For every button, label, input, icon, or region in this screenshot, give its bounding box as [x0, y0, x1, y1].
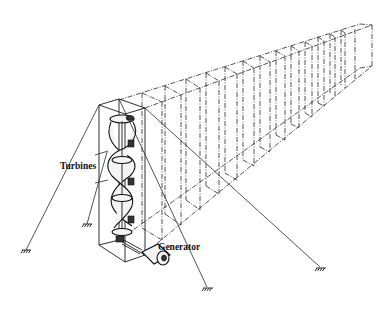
frame-structure	[119, 24, 372, 255]
ground-anchor-icon	[202, 288, 213, 291]
turbine-frame-diagram	[0, 0, 392, 314]
ground-anchor-icon	[21, 250, 31, 253]
helical-turbines	[108, 115, 136, 236]
ground-anchors	[21, 224, 326, 291]
ground-anchor-icon	[82, 224, 92, 227]
turbines-label: Turbines	[60, 161, 96, 171]
generator-label: Generator	[158, 242, 200, 252]
ground-anchor-icon	[315, 268, 326, 271]
